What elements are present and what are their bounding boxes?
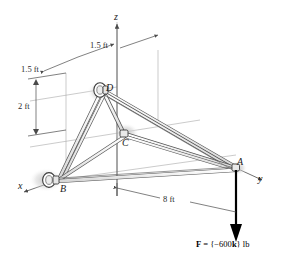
z-axis-label: z: [114, 12, 118, 22]
member-db-2: [62, 93, 105, 180]
member-ca-2: [127, 137, 236, 170]
dimension-15ft-right: 1.5 ft: [90, 41, 108, 50]
force-equals: = {: [201, 239, 214, 249]
dim-2ft-arrow-top: [33, 79, 39, 85]
force-arrow: [230, 170, 242, 242]
dimension-15ft-left: 1.5 ft: [21, 65, 39, 74]
dim-2ft-ext-bottom: [28, 130, 66, 136]
leader-8ft-left: [117, 188, 160, 198]
node-label-c: C: [122, 138, 129, 148]
y-axis-label: y: [258, 174, 262, 184]
figure-container: z x y D C B A 1.5 ft 1.5 ft 2 ft 8 ft F …: [0, 0, 284, 263]
force-magnitude: −600: [214, 239, 232, 249]
leader-8ft-right: [190, 202, 236, 212]
leader-15ft-right: [120, 35, 158, 48]
node-label-d: D: [106, 83, 113, 93]
force-label: F = {−600k} lb: [196, 240, 249, 249]
force-close: } lb: [237, 239, 250, 249]
truss-diagram-svg: [0, 0, 284, 263]
leader-15ft-left: [44, 57, 78, 71]
dimension-2ft: 2 ft: [18, 102, 30, 111]
x-axis-label: x: [18, 181, 22, 191]
node-label-b: B: [60, 184, 66, 194]
node-label-a: A: [237, 157, 243, 167]
joint-c: [120, 130, 128, 137]
dimension-8ft: 8 ft: [163, 195, 175, 204]
member-ba: [60, 170, 236, 181]
